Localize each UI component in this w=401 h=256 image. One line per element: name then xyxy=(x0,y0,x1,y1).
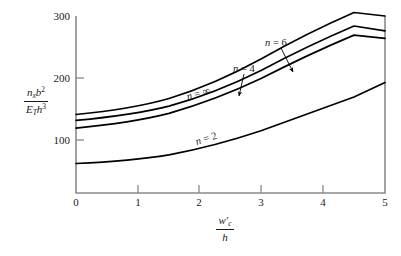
y-num-sup2: 2 xyxy=(41,85,45,94)
y-axis-tick-label-300: 300 xyxy=(54,11,71,22)
x-axis-title-numerator: w′c xyxy=(216,214,233,230)
x-num-var: w′ xyxy=(218,214,228,226)
plot-canvas xyxy=(0,0,401,256)
y-den-var: E xyxy=(26,103,33,115)
chart-figure: 300 200 100 0 1 2 3 4 5 nxb2 ETh3 w′c h … xyxy=(0,0,401,256)
x-axis-tick-label-0: 0 xyxy=(73,197,79,208)
x-den-var: h xyxy=(222,231,228,243)
y-axis-tick-label-100: 100 xyxy=(54,135,71,146)
n-6-val: 6 xyxy=(281,37,286,48)
x-axis-tick-label-2: 2 xyxy=(196,197,202,208)
y-axis-title-numerator: nxb2 xyxy=(24,86,48,102)
y-den-sup2: 3 xyxy=(42,102,46,111)
curve-label-n-4: n = 4 xyxy=(233,64,255,75)
curve-n-infinity xyxy=(76,13,385,115)
n-4-eq: = xyxy=(238,63,249,74)
y-axis-ticks xyxy=(76,78,84,140)
x-axis-tick-label-5: 5 xyxy=(382,197,388,208)
x-axis-ticks xyxy=(138,185,323,193)
curve-n-4 xyxy=(76,26,385,120)
x-axis-title-fraction: w′c h xyxy=(216,214,233,243)
n-4-val: 4 xyxy=(249,63,254,74)
y-axis-title-fraction: nxb2 ETh3 xyxy=(24,86,48,118)
x-axis-tick-label-1: 1 xyxy=(135,197,141,208)
y-axis-title: nxb2 ETh3 xyxy=(10,86,62,118)
x-num-sub: c xyxy=(228,219,231,228)
x-axis-title-denominator: h xyxy=(216,230,233,244)
curves xyxy=(76,13,385,164)
leader-n-4 xyxy=(239,74,244,96)
x-axis-title: w′c h xyxy=(203,214,247,243)
x-axis-tick-label-4: 4 xyxy=(320,197,326,208)
y-axis-title-denominator: ETh3 xyxy=(24,102,48,118)
y-axis-tick-label-200: 200 xyxy=(54,73,71,84)
x-axis-tick-label-3: 3 xyxy=(258,197,264,208)
curve-label-n-6: n = 6 xyxy=(265,38,287,49)
n-6-eq: = xyxy=(270,37,281,48)
